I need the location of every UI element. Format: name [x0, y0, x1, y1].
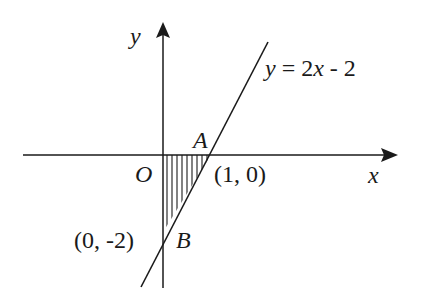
- y-axis-label: y: [128, 23, 141, 49]
- origin-label: O: [135, 161, 152, 187]
- line-equation: y = 2x - 2: [263, 55, 356, 81]
- coordinate-diagram: y x O y = 2x - 2 A (1, 0) B (0, -2): [0, 0, 421, 290]
- x-axis-label: x: [367, 162, 379, 188]
- point-a-label: A: [191, 127, 208, 153]
- point-b-label: B: [176, 227, 191, 253]
- point-b-coords: (0, -2): [74, 227, 134, 253]
- point-a-coords: (1, 0): [214, 161, 266, 187]
